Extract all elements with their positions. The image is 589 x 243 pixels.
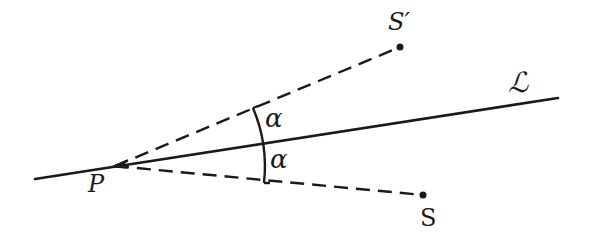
label-alpha-lower: α: [270, 144, 288, 174]
label-s-prime: S′: [388, 8, 410, 36]
label-s: S: [420, 204, 436, 232]
point-s: [420, 192, 427, 199]
reflection-diagram: [0, 0, 589, 243]
angle-arc-tick-top: [253, 106, 258, 108]
label-p: P: [88, 170, 104, 198]
label-line-l: ℒ: [508, 66, 528, 99]
point-s-prime: [397, 44, 404, 51]
dashed-line-p-to-s: [115, 166, 423, 195]
label-alpha-upper: α: [265, 103, 283, 133]
